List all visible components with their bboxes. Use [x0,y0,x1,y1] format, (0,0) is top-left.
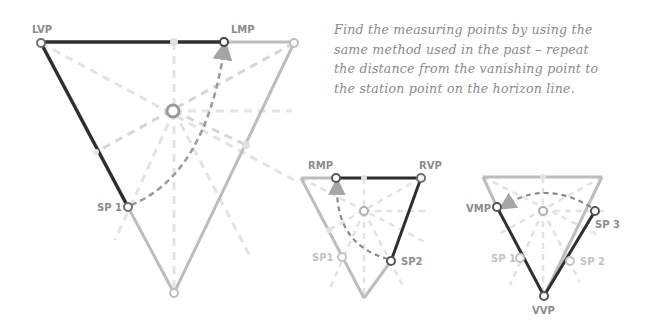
center-of-vision-point [167,105,179,117]
diagram-right-measuring: RMP RVP SP1 SP2 [301,160,442,298]
sp2-point [387,257,395,265]
sp2-label: SP 2 [580,256,605,267]
sp2-point [566,257,574,265]
sp1-point [124,203,132,211]
sp3-point [591,207,599,215]
lmp-label: LMP [231,24,255,35]
sp1-label: SP 1 [491,253,516,264]
note-line: same method used in the past – repeat [334,40,634,60]
rmp-point [332,174,340,182]
vvp-point [170,289,178,297]
rvp-point [290,39,298,47]
lmp-point [220,38,228,46]
sp3-label: SP 3 [595,219,620,230]
note-line: the station point on the horizon line. [334,79,634,99]
vvp-point [540,292,548,300]
center-of-vision-point [360,207,368,215]
vmp-label: VMP [466,203,491,214]
sp2-label: SP2 [401,256,423,267]
rmp-label: RMP [308,160,333,171]
sp1-label: SP1 [312,252,334,263]
center-of-vision-point [539,207,547,215]
vvp-label: VVP [532,305,555,316]
rvp-point [417,174,425,182]
diagram-left-measuring: LVP LMP SP 1 [32,24,298,297]
note-line: the distance from the vanishing point to [334,59,634,79]
sp1-point [516,254,524,262]
lvp-point [37,39,45,47]
diagram-vertical-measuring: VMP SP 3 SP 1 SP 2 VVP [466,174,620,316]
sp1-label: SP 1 [97,202,122,213]
rvp-label: RVP [419,160,442,171]
note-line: Find the measuring points by using the [334,20,634,40]
lvp-label: LVP [32,24,52,35]
instruction-note: Find the measuring points by using the s… [334,20,634,98]
sp1-point [338,253,346,261]
vmp-point [493,203,501,211]
